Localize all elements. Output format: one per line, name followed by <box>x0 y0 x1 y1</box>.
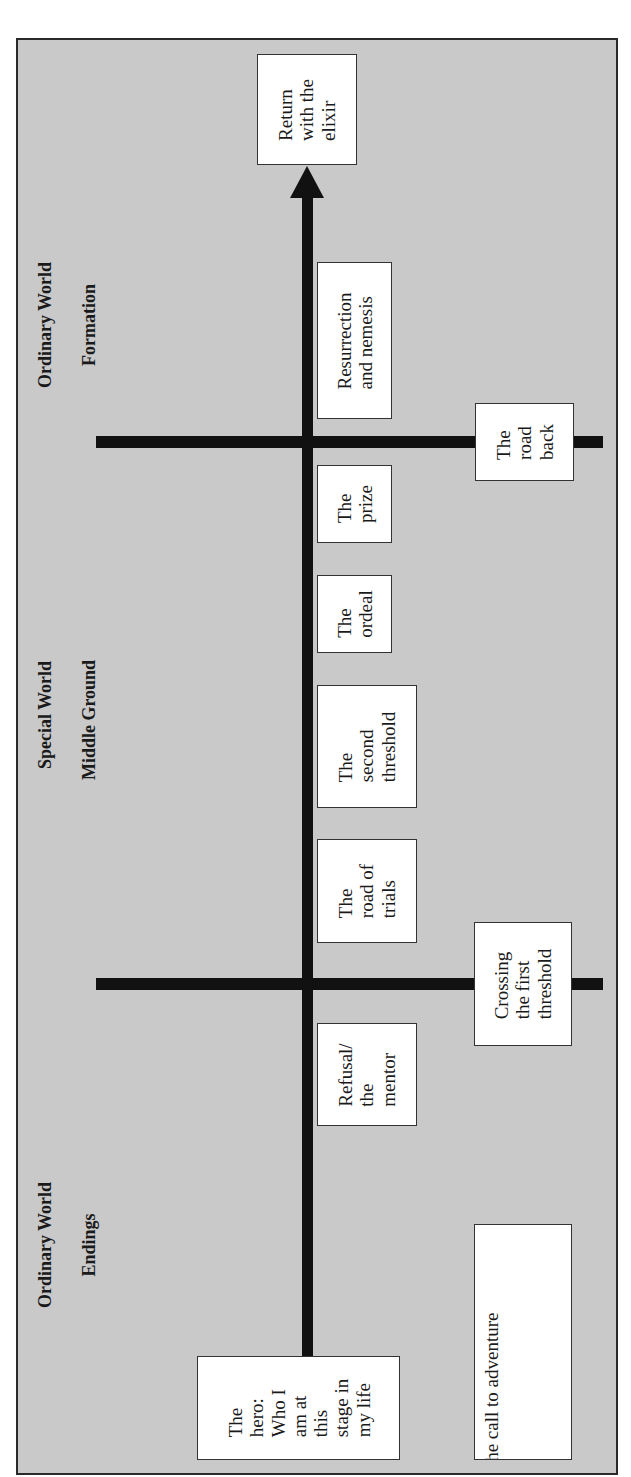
stage-crossing-first-threshold: Crossing the first threshold <box>474 922 572 1046</box>
stage-label: Resurrection and nemesis <box>333 292 376 389</box>
stage-label: The road of trials <box>335 864 399 918</box>
arrow-up-icon <box>290 166 324 198</box>
stage-label: Refusal/ the mentor <box>335 1043 399 1106</box>
stage-label: Crossing the first threshold <box>491 949 555 1020</box>
stage-label: The road back <box>493 424 557 460</box>
section-header-ordinary-world-formation: Ordinary World <box>35 262 56 388</box>
stage-the-road-back: The road back <box>475 403 574 481</box>
stage-label: The ordeal <box>333 590 376 637</box>
stage-road-of-trials: The road of trials <box>317 839 417 943</box>
stage-label: The hero: Who I am at this stage in my l… <box>224 1379 373 1438</box>
stage-return-with-elixir: Return with the elixir <box>257 54 357 165</box>
section-phase-formation: Formation <box>79 284 100 366</box>
stage-call-to-adventure: The call to adventure <box>474 1224 572 1460</box>
stage-refusal-the-mentor: Refusal/ the mentor <box>317 1023 417 1126</box>
section-phase-endings: Endings <box>79 1213 100 1276</box>
journey-axis <box>302 196 313 1358</box>
stage-the-prize: The prize <box>317 465 392 543</box>
section-header-ordinary-world-endings: Ordinary World <box>35 1182 56 1308</box>
stage-resurrection-and-nemesis: Resurrection and nemesis <box>317 262 392 419</box>
section-header-special-world: Special World <box>35 661 56 769</box>
stage-second-threshold: The second threshold <box>317 685 417 808</box>
stage-label: The prize <box>333 485 376 523</box>
stage-the-hero: The hero: Who I am at this stage in my l… <box>197 1356 400 1460</box>
stage-the-ordeal: The ordeal <box>317 575 392 653</box>
stage-label: Return with the elixir <box>275 79 339 141</box>
stage-label: The second threshold <box>335 711 399 782</box>
section-phase-middle-ground: Middle Ground <box>79 660 100 780</box>
stage-label: The call to adventure <box>481 1313 555 1460</box>
